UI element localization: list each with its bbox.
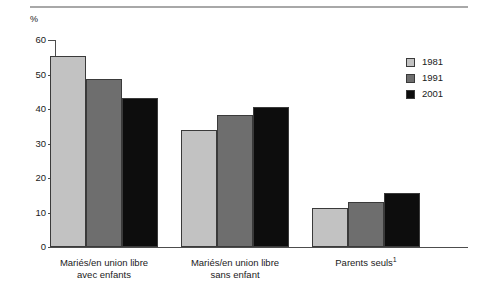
bar-2001-group-3: [384, 193, 420, 247]
category-label-line1: Mariés/en union libre: [60, 257, 148, 268]
category-label-line2: sans enfant: [145, 269, 325, 281]
bar-1991-group-3: [348, 202, 384, 247]
category-label-line1: Parents seuls: [335, 257, 393, 268]
bar-1991-group-1: [86, 79, 122, 247]
legend-label: 1991: [422, 73, 443, 83]
legend-swatch-icon-1991: [406, 74, 415, 83]
category-label-line1: Mariés/en union libre: [191, 257, 279, 268]
category-label-3: Parents seuls1: [276, 257, 456, 269]
legend-label: 2001: [422, 89, 443, 99]
bar-2001-group-2: [253, 107, 289, 247]
bar-chart-figure: % 0102030405060 Mariés/en union libreave…: [0, 0, 479, 303]
bar-1991-group-2: [217, 115, 253, 247]
bar-1981-group-1: [50, 56, 86, 247]
legend-swatch-icon-1981: [406, 58, 415, 67]
bar-2001-group-1: [122, 98, 158, 247]
bar-1981-group-3: [312, 208, 348, 247]
legend-item-2001: 2001: [406, 86, 443, 102]
bar-1981-group-2: [181, 130, 217, 247]
legend-label: 1981: [422, 57, 443, 67]
footnote-marker: 1: [393, 256, 397, 263]
legend-item-1991: 1991: [406, 70, 443, 86]
legend-item-1981: 1981: [406, 54, 443, 70]
chart-legend: 198119912001: [406, 54, 443, 102]
legend-swatch-icon-2001: [406, 90, 415, 99]
